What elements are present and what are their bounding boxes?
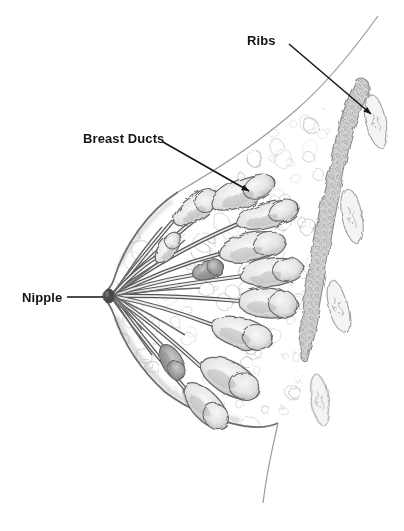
label-breast-ducts: Breast Ducts <box>83 131 164 146</box>
fat-bubble <box>109 216 116 223</box>
fat-bubble <box>221 108 226 113</box>
fat-bubble <box>106 325 114 333</box>
fat-bubble <box>157 190 166 199</box>
fat-bubble <box>118 205 130 217</box>
fat-bubble <box>166 98 177 109</box>
fat-bubble <box>268 97 278 107</box>
fat-bubble <box>112 364 120 372</box>
fat-bubble <box>261 405 268 412</box>
rib-cross-section <box>323 278 354 335</box>
fat-bubble <box>241 357 252 368</box>
fat-bubble <box>266 117 274 125</box>
fat-bubble <box>105 346 119 360</box>
fat-bubble <box>104 396 121 413</box>
fat-bubble <box>313 169 324 180</box>
fat-bubble <box>253 367 261 375</box>
fat-bubble <box>144 92 155 103</box>
fat-bubble <box>160 112 169 121</box>
fat-bubble <box>221 146 230 155</box>
fat-bubble <box>325 129 330 134</box>
fat-bubble <box>286 159 294 167</box>
fat-bubble <box>104 328 115 339</box>
fat-bubble <box>176 134 185 143</box>
fat-bubble <box>282 353 288 359</box>
fat-bubble <box>292 353 301 362</box>
fat-bubble <box>247 151 262 166</box>
fat-bubble <box>139 111 152 124</box>
fat-bubble <box>107 171 115 179</box>
fat-bubble <box>298 403 310 415</box>
rib-cross-section <box>337 187 367 246</box>
fat-bubble <box>113 153 118 158</box>
fat-bubble <box>303 398 311 406</box>
fat-bubble <box>197 113 209 125</box>
fat-bubble <box>202 153 206 157</box>
fat-bubble <box>165 126 170 131</box>
fat-bubble <box>226 286 240 300</box>
breast-ducts-leader-arrow <box>163 142 249 191</box>
fat-bubble <box>301 140 317 156</box>
fat-bubble <box>296 379 300 383</box>
fat-bubble <box>120 178 131 189</box>
fat-bubble <box>290 121 297 128</box>
fat-bubble <box>301 375 310 384</box>
fat-bubble <box>285 422 291 428</box>
fat-bubble <box>149 182 167 200</box>
rib-outline <box>337 187 367 246</box>
fat-bubble <box>260 88 275 103</box>
fat-bubble <box>110 219 126 235</box>
fat-bubble <box>178 133 185 140</box>
fat-bubble <box>321 95 334 108</box>
fat-bubble <box>269 140 284 155</box>
breast-anatomy-diagram: Ribs Breast Ducts Nipple <box>0 0 404 531</box>
nipple <box>104 289 115 304</box>
fat-bubble <box>128 235 132 239</box>
fat-bubble <box>317 129 326 138</box>
rib-cross-section <box>361 92 391 150</box>
medical-illustration: Ribs Breast Ducts Nipple <box>0 0 404 531</box>
fat-bubble <box>172 318 181 327</box>
fat-bubble <box>114 398 125 409</box>
fat-bubble <box>236 93 245 102</box>
label-nipple: Nipple <box>22 290 62 305</box>
fat-bubble <box>231 99 242 110</box>
fat-bubble <box>177 88 187 98</box>
fat-bubble <box>303 413 311 421</box>
fat-bubble <box>152 166 159 173</box>
rib-outline <box>308 373 333 427</box>
fat-bubble <box>303 151 314 162</box>
lobule-dark <box>154 341 189 384</box>
fat-bubble <box>300 219 316 235</box>
rib-outline <box>323 278 354 335</box>
fat-bubble <box>174 170 183 179</box>
fat-bubble <box>111 169 125 183</box>
fat-bubble <box>270 155 277 162</box>
fat-bubble <box>186 326 196 336</box>
fat-bubble <box>207 104 228 125</box>
fat-bubble <box>175 145 190 160</box>
lobule <box>237 286 299 320</box>
fat-bubble <box>140 210 149 219</box>
rib-outline <box>361 92 391 150</box>
fat-bubble <box>318 88 340 110</box>
fat-bubble <box>132 169 137 174</box>
fat-bubble <box>160 416 179 435</box>
lower-body-contour <box>263 423 278 503</box>
fat-bubble <box>245 111 257 123</box>
fat-bubble <box>121 152 140 171</box>
fat-bubble <box>105 256 114 265</box>
fat-bubble <box>236 400 244 408</box>
rib-cross-section <box>308 373 333 427</box>
fat-bubble <box>250 122 256 128</box>
label-ribs: Ribs <box>247 33 276 48</box>
fat-bubble <box>217 295 233 311</box>
fat-bubble <box>291 173 300 182</box>
fat-bubble <box>125 100 132 107</box>
fat-bubble <box>213 285 218 290</box>
